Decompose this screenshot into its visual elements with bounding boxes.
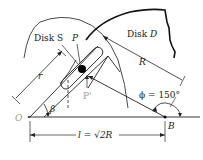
phi-arc	[153, 103, 180, 116]
p-pointer	[77, 44, 80, 63]
point-B-dot	[164, 116, 167, 119]
dim-l-arrow-right	[160, 133, 165, 137]
phi-arrow-2	[178, 113, 182, 117]
label-O: O	[15, 113, 23, 123]
label-p-prime: P'	[83, 91, 92, 101]
pin	[78, 65, 86, 73]
label-R: R	[138, 57, 146, 67]
wedge-line-2	[108, 56, 120, 72]
label-p: P	[71, 33, 79, 43]
disk-s-outline	[24, 17, 128, 108]
label-r: r	[38, 71, 43, 81]
label-disk-d: Disk D	[127, 29, 157, 39]
label-l: l = √2R	[78, 130, 113, 140]
label-beta: β	[49, 104, 55, 114]
label-B: B	[167, 121, 175, 131]
arm-line-1	[30, 46, 98, 117]
label-disk-s: Disk S	[34, 33, 63, 43]
point-O-dot	[28, 116, 31, 119]
dim-R-tick	[180, 76, 185, 86]
dim-r-tick-1	[12, 96, 20, 104]
label-phi: ϕ = 150°	[139, 90, 180, 100]
geneva-mechanism-diagram: Disk S P Disk D R r β P' ϕ = 150° O B l …	[0, 0, 203, 160]
dim-R-arrow-2	[88, 76, 93, 80]
dim-l-arrow-left	[30, 133, 35, 137]
